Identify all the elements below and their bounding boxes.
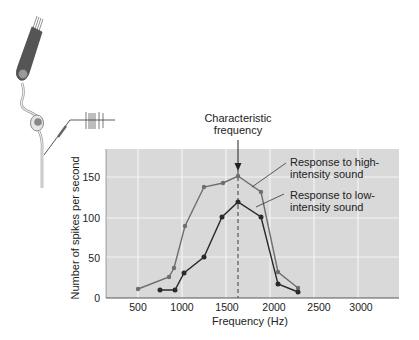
x-tick-3000: 3000 (349, 301, 373, 313)
high-intensity-label-2: intensity sound (290, 168, 363, 180)
characteristic-frequency-label: Characteristic (204, 112, 272, 124)
low-intensity-label: Response to low- (290, 189, 375, 201)
low-intensity-label-2: intensity sound (290, 201, 363, 213)
spike-train-icon (86, 112, 103, 129)
y-tick-50: 50 (88, 252, 100, 264)
y-tick-0: 0 (94, 292, 100, 304)
recording-electrode (44, 120, 70, 155)
y-axis-title: Number of spikes per second (69, 156, 81, 299)
high-intensity-label: Response to high- (290, 156, 380, 168)
x-tick-2500: 2500 (307, 301, 331, 313)
characteristic-frequency-label-2: frequency (214, 124, 263, 136)
ganglion-nucleus (34, 118, 42, 126)
figure: Characteristic frequency Response to hig… (0, 0, 419, 340)
x-tick-2000: 2000 (262, 301, 286, 313)
y-tick-150: 150 (82, 171, 100, 183)
x-tick-1500: 1500 (215, 301, 239, 313)
x-axis-title: Frequency (Hz) (212, 315, 288, 327)
x-tick-1000: 1000 (170, 301, 194, 313)
hair-cell-neuron-illustration (16, 16, 115, 188)
x-tick-500: 500 (129, 301, 147, 313)
hair-cell-nucleus (19, 70, 28, 79)
y-tick-100: 100 (82, 212, 100, 224)
